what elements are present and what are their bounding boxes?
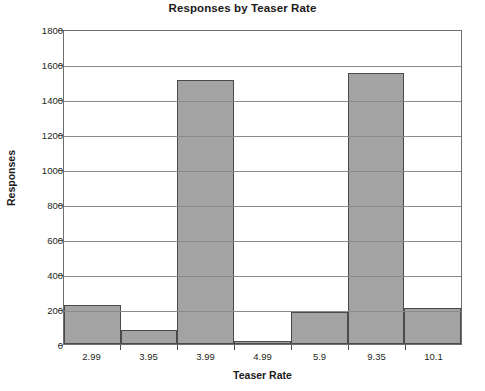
x-tick-label: 3.99 <box>196 351 215 362</box>
x-axis-title: Teaser Rate <box>63 369 462 381</box>
x-tick-mark <box>291 345 292 350</box>
y-tick-label: 1800 <box>17 25 63 36</box>
gridline <box>64 241 461 242</box>
bar-chart: Responses by Teaser Rate 020040060080010… <box>0 0 485 391</box>
y-tick-label: 200 <box>17 305 63 316</box>
gridline <box>64 136 461 137</box>
bar-slot <box>121 31 178 344</box>
bar-slot <box>234 31 291 344</box>
plot-area <box>63 30 462 345</box>
y-tick-label: 1000 <box>17 165 63 176</box>
bar[interactable] <box>177 80 234 344</box>
gridline <box>64 171 461 172</box>
x-tick-label: 5.9 <box>313 351 326 362</box>
bar[interactable] <box>121 330 178 344</box>
bar-slot <box>348 31 405 344</box>
y-tick-mark <box>58 205 63 206</box>
y-tick-label: 400 <box>17 270 63 281</box>
y-axis-title: Responses <box>5 118 17 238</box>
x-tick-label: 10.1 <box>424 351 443 362</box>
bar-slot <box>177 31 234 344</box>
y-tick-mark <box>58 100 63 101</box>
y-tick-mark <box>58 240 63 241</box>
y-tick-label: 1600 <box>17 60 63 71</box>
y-tick-label: 0 <box>17 340 63 351</box>
bar-slot <box>291 31 348 344</box>
x-tick-label: 4.99 <box>253 351 272 362</box>
y-tick-label: 600 <box>17 235 63 246</box>
y-tick-mark <box>58 345 63 346</box>
y-tick-mark <box>58 30 63 31</box>
bars-layer <box>64 31 461 344</box>
chart-title: Responses by Teaser Rate <box>0 2 485 14</box>
x-tick-mark <box>120 345 121 350</box>
bar[interactable] <box>291 312 348 344</box>
gridline <box>64 101 461 102</box>
y-tick-mark <box>58 135 63 136</box>
y-tick-mark <box>58 310 63 311</box>
bar-slot <box>64 31 121 344</box>
bar[interactable] <box>348 73 405 344</box>
y-tick-mark <box>58 65 63 66</box>
x-tick-label: 9.35 <box>367 351 386 362</box>
y-tick-label: 1400 <box>17 95 63 106</box>
gridline <box>64 276 461 277</box>
bar-slot <box>404 31 461 344</box>
y-tick-label: 800 <box>17 200 63 211</box>
y-tick-mark <box>58 275 63 276</box>
gridline <box>64 66 461 67</box>
y-tick-label: 1200 <box>17 130 63 141</box>
gridline <box>64 206 461 207</box>
bar[interactable] <box>404 308 461 344</box>
x-tick-mark <box>234 345 235 350</box>
y-tick-mark <box>58 170 63 171</box>
x-tick-label: 3.95 <box>139 351 158 362</box>
x-tick-mark <box>177 345 178 350</box>
bar[interactable] <box>234 341 291 345</box>
x-tick-label: 2.99 <box>82 351 101 362</box>
x-tick-mark <box>348 345 349 350</box>
gridline <box>64 311 461 312</box>
x-tick-mark <box>405 345 406 350</box>
